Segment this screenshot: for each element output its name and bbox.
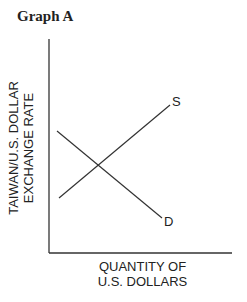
supply-label: S xyxy=(172,94,181,109)
x-axis-label-line-2: U.S. DOLLARS xyxy=(60,274,225,289)
svg-text:TAIWAN/U.S. DOLLAR: TAIWAN/U.S. DOLLAR xyxy=(6,81,21,215)
svg-text:EXCHANGE RATE: EXCHANGE RATE xyxy=(21,93,36,204)
demand-curve xyxy=(57,131,162,218)
supply-curve xyxy=(59,105,170,198)
chart-plot: S D TAIWAN/U.S. DOLLAR EXCHANGE RATE xyxy=(0,0,247,302)
x-axis-label: QUANTITY OF U.S. DOLLARS xyxy=(60,259,225,289)
demand-label: D xyxy=(164,214,173,229)
y-axis-label: TAIWAN/U.S. DOLLAR EXCHANGE RATE xyxy=(6,81,36,215)
x-axis-label-line-1: QUANTITY OF xyxy=(60,259,225,274)
